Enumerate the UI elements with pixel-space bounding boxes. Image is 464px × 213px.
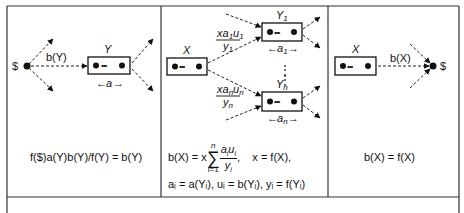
node-label: Y <box>104 43 112 55</box>
node-label-x: X <box>182 44 191 56</box>
right-panel-diagram: ••• X b(X) $ <box>335 43 446 88</box>
node-dot-right <box>119 63 125 69</box>
equation-tail: , x = f(X), <box>237 151 291 163</box>
edge-label: b(Y) <box>46 51 67 63</box>
node-dot-right <box>291 29 297 35</box>
in-arrow-bottom <box>410 69 430 88</box>
right-panel-equation: b(X) = f(X) <box>364 151 415 163</box>
node-dot-right <box>365 63 371 69</box>
width-label: an <box>277 112 288 126</box>
sum-symbol: ∑ <box>207 150 220 166</box>
left-panel-diagram: $ b(Y) ••• Y ← a → <box>12 39 153 91</box>
node-label-x: X <box>351 43 360 55</box>
fraction-numerator: xanun <box>216 83 244 97</box>
node-dot-left <box>267 29 273 35</box>
fraction-denominator: y1 <box>222 40 233 54</box>
sum-lower-limit: i=1 <box>207 166 220 174</box>
out-arrow-yn-down <box>303 105 320 118</box>
in-arrow-top <box>410 44 430 63</box>
sum-operator: n∑i=1 <box>207 142 220 174</box>
width-indicator-yn: ← an → <box>267 112 299 126</box>
out-arrow-y1-down <box>303 35 320 48</box>
width-arrow-right: → <box>113 77 124 89</box>
out-arrow-y1-up <box>303 17 320 29</box>
fraction-numerator: xa1u1 <box>216 27 244 41</box>
edge-label: b(X) <box>390 52 411 64</box>
middle-panel-diagram: ••• X ••• Y1 ← a1 → ⋮ ⋮ ••• Yn ← an → <box>167 9 320 126</box>
in-arrow-y1-from-x <box>208 37 261 63</box>
node-label-y1: Y1 <box>276 9 288 23</box>
edge-fraction-1: xa1u1 y1 <box>216 27 244 54</box>
edge-fraction-n: xanun yn <box>216 83 244 110</box>
sum-fraction: aiuiyi <box>220 143 237 172</box>
width-indicator: ← a → <box>96 77 124 89</box>
out-arrow-yn-up <box>303 86 320 98</box>
equation-lhs: b(X) = x <box>168 151 207 163</box>
index: i <box>234 151 236 158</box>
box-out-arrow-down <box>132 69 153 91</box>
node-dot-right <box>291 99 297 105</box>
sink-dot <box>430 63 437 70</box>
source-label: $ <box>12 60 18 72</box>
width-arrow-right: → <box>288 112 299 124</box>
middle-panel-equation-line1: b(X) = xn∑i=1aiuiyi, x = f(X), <box>168 142 291 174</box>
in-arrow-y1-top <box>226 14 261 27</box>
fraction-denominator: yn <box>222 96 234 110</box>
sink-label: $ <box>440 60 446 72</box>
width-arrow-right: → <box>288 42 299 54</box>
width-indicator-y1: ← a1 → <box>267 42 299 56</box>
node-dot-left <box>267 99 273 105</box>
node-dot-left <box>172 64 178 70</box>
middle-panel-equation-line2: aᵢ = a(Yᵢ), uᵢ = b(Yᵢ), yᵢ = f(Yᵢ) <box>168 178 305 190</box>
width-label: a1 <box>277 42 288 56</box>
out-arrow-down <box>29 68 53 91</box>
node-dot-right <box>196 64 202 70</box>
width-label: a <box>106 77 112 89</box>
node-dot-left <box>93 63 99 69</box>
left-panel-equation: f($)a(Y)b(Y)/f(Y) = b(Y) <box>30 151 142 163</box>
index: i <box>230 166 232 173</box>
box-out-arrow-up <box>132 39 153 63</box>
node-dot-left <box>340 63 346 69</box>
